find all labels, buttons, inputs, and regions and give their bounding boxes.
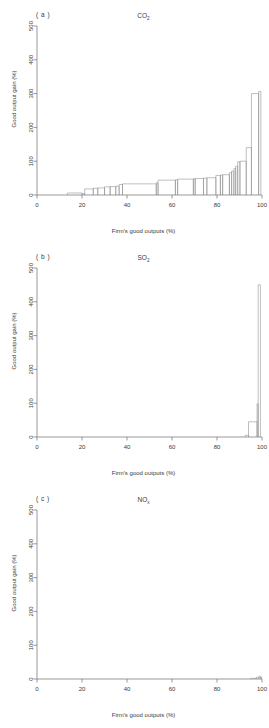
svg-text:500: 500 [28, 504, 34, 515]
svg-text:100: 100 [28, 640, 34, 651]
panel-a-ylabel: Good output gain (%) [11, 39, 17, 159]
svg-text:0: 0 [35, 444, 39, 450]
panel-c: ( c ) NOx 0100200300400500020406080100 G… [0, 484, 269, 726]
three-panel-histogram-figure: ( a ) CO2 0100200300400500020406080100 G… [0, 0, 269, 728]
svg-text:0: 0 [35, 202, 39, 208]
svg-text:300: 300 [28, 88, 34, 99]
svg-text:60: 60 [169, 202, 176, 208]
svg-text:300: 300 [28, 330, 34, 341]
svg-text:400: 400 [28, 296, 34, 307]
svg-text:80: 80 [214, 686, 221, 692]
svg-text:80: 80 [214, 444, 221, 450]
panel-b: ( b ) SO2 0100200300400500020406080100 G… [0, 242, 269, 484]
svg-text:100: 100 [257, 686, 268, 692]
svg-text:100: 100 [28, 156, 34, 167]
svg-text:400: 400 [28, 538, 34, 549]
svg-text:60: 60 [169, 444, 176, 450]
panel-c-svg: 0100200300400500020406080100 [0, 484, 269, 726]
svg-text:200: 200 [28, 364, 34, 375]
panel-b-xlabel: Firm's good outputs (%) [18, 470, 269, 476]
svg-text:40: 40 [124, 444, 131, 450]
svg-text:300: 300 [28, 572, 34, 583]
svg-text:500: 500 [28, 20, 34, 31]
svg-text:100: 100 [28, 398, 34, 409]
svg-text:400: 400 [28, 54, 34, 65]
svg-text:40: 40 [124, 202, 131, 208]
svg-text:500: 500 [28, 262, 34, 273]
panel-c-xlabel: Firm's good outputs (%) [18, 712, 269, 718]
panel-a-plot: 0100200300400500020406080100 [0, 0, 269, 242]
panel-a-svg: 0100200300400500020406080100 [0, 0, 269, 242]
svg-text:200: 200 [28, 606, 34, 617]
svg-text:0: 0 [35, 686, 39, 692]
svg-text:0: 0 [28, 677, 34, 681]
panel-c-ylabel: Good output gain (%) [11, 523, 17, 643]
svg-text:20: 20 [79, 686, 86, 692]
svg-text:20: 20 [79, 444, 86, 450]
svg-text:0: 0 [28, 193, 34, 197]
svg-text:200: 200 [28, 122, 34, 133]
svg-text:100: 100 [257, 444, 268, 450]
panel-b-plot: 0100200300400500020406080100 [0, 242, 269, 484]
svg-text:80: 80 [214, 202, 221, 208]
svg-text:0: 0 [28, 435, 34, 439]
svg-text:20: 20 [79, 202, 86, 208]
panel-c-plot: 0100200300400500020406080100 [0, 484, 269, 726]
panel-b-svg: 0100200300400500020406080100 [0, 242, 269, 484]
panel-a-xlabel: Firm's good outputs (%) [18, 228, 269, 234]
svg-text:100: 100 [257, 202, 268, 208]
svg-text:40: 40 [124, 686, 131, 692]
svg-text:60: 60 [169, 686, 176, 692]
panel-a: ( a ) CO2 0100200300400500020406080100 G… [0, 0, 269, 242]
panel-b-ylabel: Good output gain (%) [11, 281, 17, 401]
